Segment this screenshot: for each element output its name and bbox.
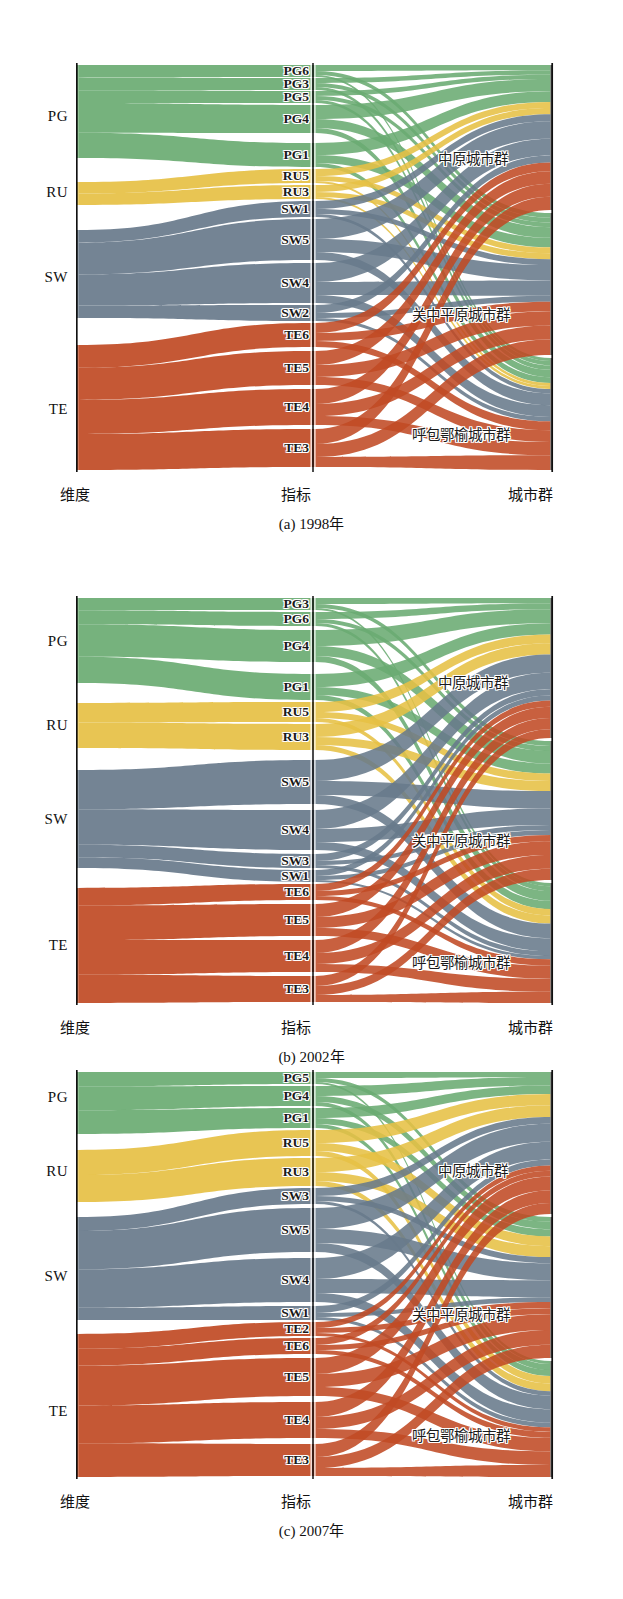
dimension-label-ru-b: RU xyxy=(22,717,68,734)
cluster-label-2-a: 关中平原城市群 xyxy=(412,303,510,324)
plot-area-2007 xyxy=(76,1062,554,1482)
indicator-label-te5-a: TE5 xyxy=(267,360,309,376)
dimension-label-te-a: TE xyxy=(22,401,68,418)
indicator-label-te2-c: TE2 xyxy=(267,1321,309,1337)
indicator-label-pg4-b: PG4 xyxy=(267,638,309,654)
indicator-label-te3-c: TE3 xyxy=(267,1452,309,1468)
indicator-label-te4-c: TE4 xyxy=(267,1412,309,1428)
indicator-label-sw5-b: SW5 xyxy=(267,774,309,790)
axis-label-right-1998: 城市群 xyxy=(508,483,553,504)
axis-label-middle-2002: 指标 xyxy=(281,1016,311,1037)
indicator-label-ru5-c: RU5 xyxy=(267,1135,309,1151)
indicator-label-pg4-a: PG4 xyxy=(267,111,309,127)
indicator-label-te4-b: TE4 xyxy=(267,948,309,964)
indicator-label-ru3-c: RU3 xyxy=(267,1164,309,1180)
axis-label-left-2002: 维度 xyxy=(60,1016,90,1037)
dimension-label-pg-a: PG xyxy=(22,108,68,125)
cluster-label-1-b: 中原城市群 xyxy=(438,671,508,692)
sankey-figure: 维度 指标 城市群 (a) 1998年 PGRUSWTEPG6PG3PG5PG4… xyxy=(0,0,623,1599)
cluster-label-2-c: 关中平原城市群 xyxy=(412,1303,510,1324)
cluster-label-1-a: 中原城市群 xyxy=(438,147,508,168)
panel-1998: 维度 指标 城市群 (a) 1998年 PGRUSWTEPG6PG3PG5PG4… xyxy=(0,55,623,535)
dimension-label-pg-b: PG xyxy=(22,633,68,650)
cluster-label-3-c: 呼包鄂榆城市群 xyxy=(412,1424,510,1445)
cluster-label-1-c: 中原城市群 xyxy=(438,1159,508,1180)
dimension-label-ru-a: RU xyxy=(22,184,68,201)
indicator-label-pg1-b: PG1 xyxy=(267,679,309,695)
indicator-label-ru5-a: RU5 xyxy=(267,168,309,184)
dimension-label-sw-b: SW xyxy=(22,811,68,828)
indicator-label-pg1-c: PG1 xyxy=(267,1110,309,1126)
indicator-label-sw5-c: SW5 xyxy=(267,1222,309,1238)
indicator-label-pg5-c: PG5 xyxy=(267,1070,309,1086)
panel-caption-1998: (a) 1998年 xyxy=(0,512,623,533)
indicator-label-te4-a: TE4 xyxy=(267,399,309,415)
indicator-label-sw4-c: SW4 xyxy=(267,1272,309,1288)
cluster-label-2-b: 关中平原城市群 xyxy=(412,829,510,850)
axis-label-right-2002: 城市群 xyxy=(508,1016,553,1037)
indicator-label-sw1-a: SW1 xyxy=(267,201,309,217)
indicator-label-te5-b: TE5 xyxy=(267,912,309,928)
indicator-label-te6-c: TE6 xyxy=(267,1338,309,1354)
indicator-label-te6-a: TE6 xyxy=(267,327,309,343)
indicator-label-ru3-a: RU3 xyxy=(267,184,309,200)
dimension-label-ru-c: RU xyxy=(22,1163,68,1180)
indicator-label-te3-a: TE3 xyxy=(267,440,309,456)
indicator-label-pg5-a: PG5 xyxy=(267,89,309,105)
indicator-label-ru3-b: RU3 xyxy=(267,729,309,745)
dimension-label-sw-c: SW xyxy=(22,1268,68,1285)
dimension-label-pg-c: PG xyxy=(22,1089,68,1106)
cluster-label-3-b: 呼包鄂榆城市群 xyxy=(412,951,510,972)
indicator-label-te3-b: TE3 xyxy=(267,981,309,997)
indicator-label-pg4-c: PG4 xyxy=(267,1088,309,1104)
dimension-label-te-c: TE xyxy=(22,1403,68,1420)
axis-label-left-2007: 维度 xyxy=(60,1490,90,1511)
panel-2007: 维度 指标 城市群 (c) 2007年 PGRUSWTEPG5PG4PG1RU5… xyxy=(0,1062,623,1542)
indicator-label-pg6-b: PG6 xyxy=(267,611,309,627)
indicator-label-sw1-b: SW1 xyxy=(267,868,309,884)
plot-area-1998 xyxy=(76,55,554,475)
indicator-label-pg1-a: PG1 xyxy=(267,147,309,163)
indicator-label-sw4-a: SW4 xyxy=(267,275,309,291)
dimension-label-sw-a: SW xyxy=(22,269,68,286)
dimension-label-te-b: TE xyxy=(22,937,68,954)
panel-2002: 维度 指标 城市群 (b) 2002年 PGRUSWTEPG3PG6PG4PG1… xyxy=(0,588,623,1068)
axis-label-middle-1998: 指标 xyxy=(281,483,311,504)
axis-label-left-1998: 维度 xyxy=(60,483,90,504)
cluster-label-3-a: 呼包鄂榆城市群 xyxy=(412,423,510,444)
indicator-label-sw2-a: SW2 xyxy=(267,305,309,321)
indicator-label-sw4-b: SW4 xyxy=(267,822,309,838)
indicator-label-sw1-c: SW1 xyxy=(267,1305,309,1321)
indicator-label-te5-c: TE5 xyxy=(267,1369,309,1385)
indicator-label-pg3-b: PG3 xyxy=(267,596,309,612)
panel-caption-2007: (c) 2007年 xyxy=(0,1519,623,1540)
axis-label-middle-2007: 指标 xyxy=(281,1490,311,1511)
plot-area-2002 xyxy=(76,588,554,1008)
indicator-label-sw3-c: SW3 xyxy=(267,1188,309,1204)
indicator-label-sw5-a: SW5 xyxy=(267,232,309,248)
axis-label-right-2007: 城市群 xyxy=(508,1490,553,1511)
indicator-label-te6-b: TE6 xyxy=(267,884,309,900)
indicator-label-ru5-b: RU5 xyxy=(267,704,309,720)
indicator-label-sw3-b: SW3 xyxy=(267,853,309,869)
